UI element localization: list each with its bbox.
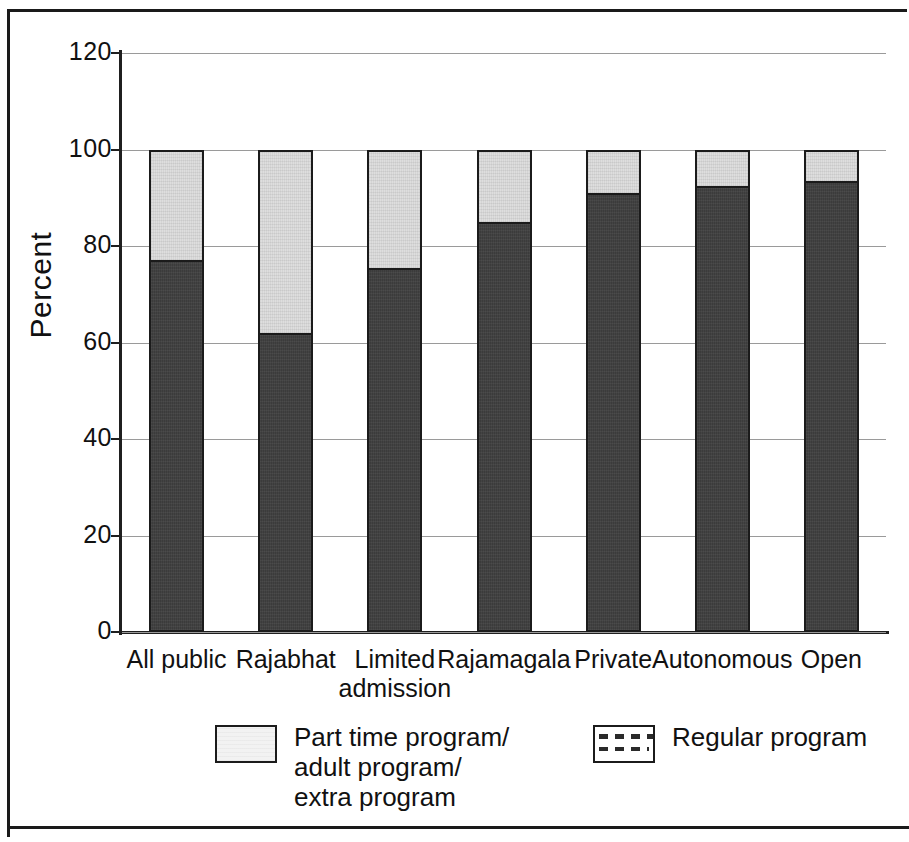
figure-frame-bottom-rule (7, 826, 909, 829)
y-tick-label: 60 (83, 327, 112, 356)
legend-label: Regular program (672, 722, 867, 752)
legend-entry-part-time-program: Part time program/ adult program/ extra … (215, 722, 509, 812)
bar-segment-regular-program (804, 181, 859, 632)
y-tick-label: 20 (83, 520, 112, 549)
bar-limited-admission (367, 150, 422, 633)
bar-segment-part-time-program (804, 150, 859, 181)
y-tick-100 (111, 149, 122, 151)
bar-open (804, 150, 859, 633)
bar-segment-part-time-program (586, 150, 641, 193)
bar-segment-regular-program (367, 268, 422, 632)
bar-rajabhat (258, 150, 313, 633)
plot-area (122, 53, 886, 632)
y-tick-120 (111, 52, 122, 54)
bar-all-public (149, 150, 204, 633)
y-tick-80 (111, 245, 122, 247)
legend-swatch-light-fill (215, 725, 277, 763)
y-tick-label: 80 (83, 230, 112, 259)
bar-private (586, 150, 641, 633)
bar-segment-regular-program (258, 333, 313, 632)
gridline-0 (122, 632, 886, 633)
legend-entry-regular-program: Regular program (593, 722, 867, 763)
y-tick-40 (111, 438, 122, 440)
bar-segment-regular-program (695, 186, 750, 632)
chart-legend: Part time program/ adult program/ extra … (0, 722, 909, 822)
bar-segment-part-time-program (258, 150, 313, 333)
bar-segment-regular-program (149, 260, 204, 632)
gridline-120 (122, 53, 886, 54)
bar-segment-part-time-program (477, 150, 532, 222)
bar-autonomous (695, 150, 750, 633)
bar-segment-part-time-program (695, 150, 750, 186)
y-tick-0 (111, 631, 122, 633)
y-axis-tick-labels: 020406080100120 (0, 0, 112, 842)
x-tick-label-open: Open (721, 645, 909, 674)
y-tick-label: 40 (83, 423, 112, 452)
y-tick-20 (111, 535, 122, 537)
bar-segment-part-time-program (149, 150, 204, 261)
x-tick-label-line: Open (721, 645, 909, 674)
x-axis-tick-labels: All publicRajabhatLimitedadmissionRajama… (122, 645, 890, 705)
legend-label: Part time program/ adult program/ extra … (294, 722, 509, 812)
x-tick-label-line: admission (285, 674, 505, 703)
bar-segment-regular-program (477, 222, 532, 632)
y-axis-title: Percent (24, 232, 58, 339)
bar-rajamagala (477, 150, 532, 633)
y-tick-60 (111, 342, 122, 344)
y-tick-label: 0 (98, 616, 112, 645)
bar-segment-part-time-program (367, 150, 422, 268)
y-tick-label: 120 (69, 37, 112, 66)
legend-swatch-dashed-pattern (593, 725, 655, 763)
bar-segment-regular-program (586, 193, 641, 632)
y-tick-label: 100 (69, 134, 112, 163)
